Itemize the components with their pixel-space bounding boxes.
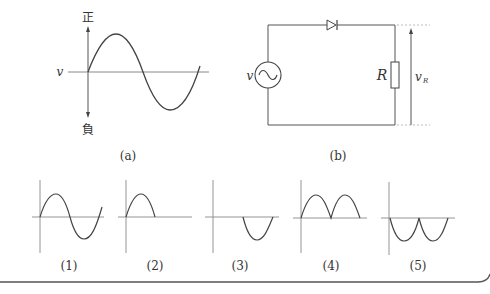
caption-b: (b) <box>329 149 346 163</box>
choice-label: (3) <box>232 259 249 273</box>
waveform <box>243 217 273 240</box>
resistor-label: R <box>376 67 388 83</box>
positive-label: 正 <box>82 11 94 25</box>
caption-a: (a) <box>120 149 137 163</box>
v-label: v <box>57 65 64 79</box>
choice-2: (2) <box>118 180 192 273</box>
resistor-icon <box>391 62 399 88</box>
waveform <box>40 194 102 239</box>
waveform <box>390 218 448 241</box>
choice-label: (4) <box>323 259 340 273</box>
diagram-canvas: 正 負 v (a) v R v R <box>0 0 490 294</box>
diode-icon <box>327 20 337 30</box>
waveform <box>126 194 155 217</box>
arrow-up-icon <box>86 26 90 32</box>
choice-label: (5) <box>410 259 427 273</box>
choice-label: (2) <box>147 259 164 273</box>
ac-source-icon <box>255 62 281 88</box>
choice-4: (4) <box>293 180 367 273</box>
source-label: v <box>247 69 254 83</box>
choice-3: (3) <box>205 180 279 273</box>
waveform <box>301 195 360 218</box>
arrow-up-icon <box>409 28 413 34</box>
vr-label-sub: R <box>422 77 429 85</box>
choice-1: (1) <box>32 180 104 273</box>
vr-label-main: v <box>415 70 422 84</box>
figure-b: v R v R (b) <box>247 20 430 163</box>
figure-a: 正 負 v (a) <box>57 11 209 163</box>
choice-5: (5) <box>381 182 455 273</box>
choice-label: (1) <box>61 259 78 273</box>
arrow-down-icon <box>86 112 90 118</box>
negative-label: 負 <box>82 123 94 137</box>
bottom-border <box>0 274 490 282</box>
